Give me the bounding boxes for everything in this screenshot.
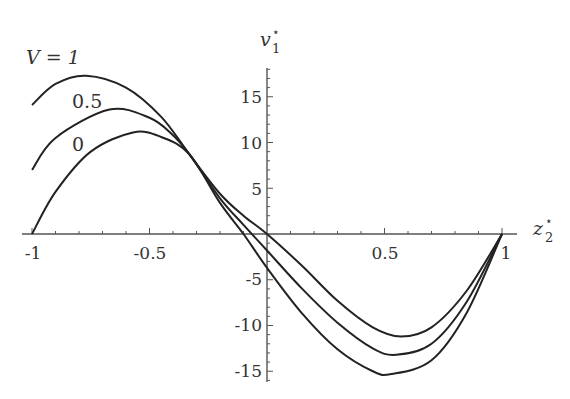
y-tick-label: -10 [235,315,262,335]
x-axis-title-sub: 2 [545,230,553,245]
x-axis-title: z 2 ⋆ [532,214,553,245]
y-tick-label: 10 [240,133,262,153]
y-tick-label: -15 [235,361,262,381]
y-axis-title-sub: 1 [272,41,280,56]
curve-label-v-0-5: 0.5 [72,90,102,112]
curve-label-v-0: 0 [72,133,84,155]
y-tick-label: 15 [240,87,262,107]
curve-label-v-1: V = 1 [26,46,80,68]
x-tick-label: 1 [501,243,512,263]
x-axis-title-sup: ⋆ [545,214,553,228]
x-tick-label: -0.5 [134,243,167,263]
chart: -1 -0.5 0.5 1 15 10 5 -5 -10 -15 v 1 ⋆ z… [0,0,570,399]
x-tick-label: 0.5 [371,243,398,263]
y-axis-title-main: v [260,28,271,50]
x-axis-title-main: z [532,217,544,239]
y-axis-title-sup: ⋆ [272,25,280,39]
x-tick-label: -1 [25,243,42,263]
y-tick-label: -5 [245,269,262,289]
y-axis-title: v 1 ⋆ [260,25,280,56]
y-tick-label: 5 [251,179,262,199]
